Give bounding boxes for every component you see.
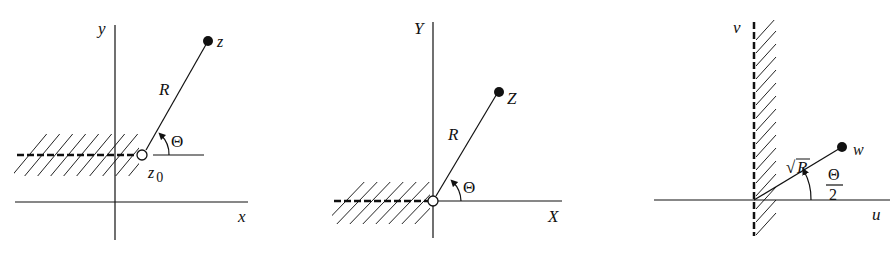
- angle-label: Θ: [171, 132, 183, 151]
- point-marker: [494, 87, 504, 97]
- x-axis-label: x: [237, 207, 246, 226]
- angle-arc: [161, 135, 169, 155]
- radius-symbol: R: [796, 158, 808, 177]
- panel-Z-plane: Y X Z R Θ: [320, 19, 562, 238]
- angle-arc: [453, 182, 461, 201]
- Y-axis-label: Y: [414, 19, 425, 38]
- origin-marker: [428, 196, 438, 206]
- point-marker: [203, 36, 213, 46]
- point-marker: [837, 142, 847, 152]
- panel-z-plane: y x z R Θ z0: [0, 19, 248, 240]
- angle-denominator: 2: [829, 186, 837, 203]
- panel-w-plane: v u w √ R Θ 2: [654, 18, 890, 236]
- point-label: Z: [507, 89, 517, 108]
- branch-point-label: z0: [147, 164, 163, 185]
- angle-label: Θ: [463, 178, 475, 197]
- radius-label: R: [447, 125, 459, 144]
- branch-cut-hatching: [756, 18, 776, 235]
- X-axis-label: X: [547, 207, 559, 226]
- angle-label: Θ 2: [826, 166, 843, 203]
- branch-cut-hatching: [0, 130, 180, 190]
- branch-point-marker: [137, 150, 147, 160]
- sqrt-symbol: √: [786, 158, 796, 177]
- diagram-canvas: y x z R Θ z0 Y X Z R Θ: [0, 0, 891, 256]
- y-axis-label: y: [96, 19, 106, 38]
- point-label: w: [853, 141, 864, 158]
- point-label: z: [216, 33, 224, 50]
- angle-numerator: Θ: [828, 166, 840, 183]
- radius-label: R: [158, 80, 170, 99]
- radius-label: √ R: [786, 158, 810, 177]
- v-axis-label: v: [733, 18, 741, 37]
- u-axis-label: u: [872, 205, 881, 224]
